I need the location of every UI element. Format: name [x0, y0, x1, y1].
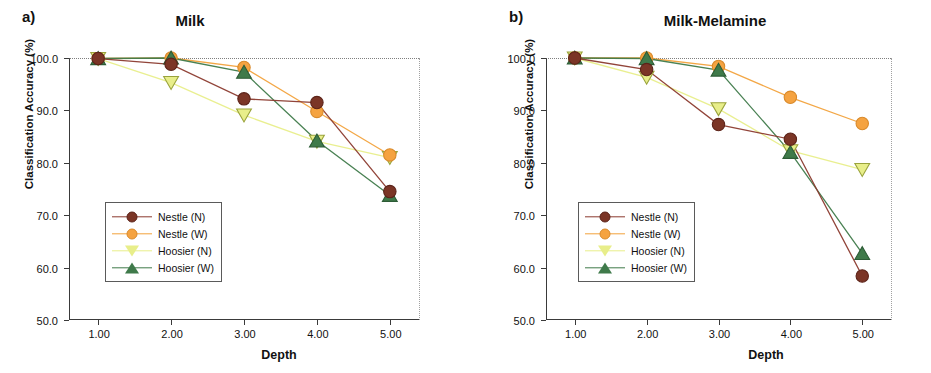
y-axis-tick-label: 60.0 — [514, 263, 535, 275]
data-point — [569, 52, 581, 64]
legend-item: Hoosier (N) — [112, 242, 214, 259]
y-axis-tick-label: 50.0 — [514, 315, 535, 327]
panel-b-plot-area: 50.060.070.080.090.0100.01.002.003.004.0… — [546, 58, 891, 320]
y-axis-tick-label: 80.0 — [37, 158, 58, 170]
x-axis-tick-label: 2.00 — [637, 328, 658, 340]
data-point — [238, 93, 250, 105]
legend-symbol — [127, 228, 138, 239]
data-point — [711, 103, 726, 116]
panel-a-x-axis-label: Depth — [219, 348, 339, 362]
data-point — [855, 164, 870, 177]
legend-symbol — [125, 245, 139, 256]
legend-item-label: Hoosier (W) — [631, 262, 687, 274]
x-axis-tick-label: 4.00 — [781, 328, 802, 340]
data-point — [311, 96, 323, 108]
x-axis-tick: 3.00 — [244, 320, 245, 325]
data-point — [784, 91, 796, 103]
panel-b-x-axis-label: Depth — [706, 348, 826, 362]
panel-a-plot-area: 50.060.070.080.090.0100.01.002.003.004.0… — [69, 58, 419, 320]
legend-marker-circle-icon — [112, 227, 152, 241]
legend-item: Hoosier (W) — [112, 259, 214, 276]
x-axis-tick: 2.00 — [647, 320, 648, 325]
panel-a-y-axis-label: Classification Accuracy (%) — [23, 0, 35, 234]
y-axis-tick-label: 100.0 — [507, 53, 535, 65]
legend-marker-circle-icon — [112, 210, 152, 224]
y-axis-tick-label: 60.0 — [37, 263, 58, 275]
panel-a: a) Milk Classification Accuracy (%) 50.0… — [0, 0, 465, 373]
legend-item-label: Nestle (N) — [631, 211, 678, 223]
y-axis-tick-label: 100.0 — [30, 53, 58, 65]
x-axis-tick-label: 5.00 — [853, 328, 874, 340]
data-point — [165, 58, 177, 70]
legend-item-label: Hoosier (N) — [631, 245, 685, 257]
data-point — [712, 118, 724, 130]
legend-marker-circle-icon — [585, 210, 625, 224]
y-axis-tick-label: 70.0 — [514, 210, 535, 222]
x-axis-tick: 2.00 — [171, 320, 172, 325]
y-axis-tick: 50.0 — [64, 320, 69, 321]
x-axis-tick: 4.00 — [317, 320, 318, 325]
data-point — [640, 63, 652, 75]
x-axis-tick-label: 3.00 — [234, 328, 255, 340]
legend-item-label: Nestle (W) — [158, 228, 208, 240]
y-axis-tick-label: 90.0 — [37, 105, 58, 117]
legend-item-label: Hoosier (W) — [158, 262, 214, 274]
x-axis-tick-label: 1.00 — [565, 328, 586, 340]
x-axis-tick-label: 3.00 — [709, 328, 730, 340]
legend-item-label: Nestle (N) — [158, 211, 205, 223]
legend-marker-triangle-down-icon — [112, 244, 152, 258]
data-point — [92, 52, 104, 64]
panel-b: b) Milk-Melamine Classification Accuracy… — [465, 0, 930, 373]
x-axis-tick-label: 2.00 — [161, 328, 182, 340]
legend-item-label: Nestle (W) — [631, 228, 681, 240]
legend-marker-triangle-up-icon — [585, 261, 625, 275]
legend-item-label: Hoosier (N) — [158, 245, 212, 257]
legend-symbol — [598, 262, 612, 273]
x-axis-tick-label: 4.00 — [307, 328, 328, 340]
data-point — [164, 77, 179, 90]
data-point — [784, 133, 796, 145]
y-axis-tick-label: 50.0 — [37, 315, 58, 327]
y-axis-tick-label: 70.0 — [37, 210, 58, 222]
data-point — [855, 247, 870, 260]
legend-symbol — [598, 245, 612, 256]
x-axis-tick-label: 5.00 — [380, 328, 401, 340]
data-point — [856, 270, 868, 282]
panel-b-title: Milk-Melamine — [525, 12, 905, 29]
x-axis-tick: 1.00 — [575, 320, 576, 325]
y-axis-tick-label: 90.0 — [514, 105, 535, 117]
legend-item: Nestle (W) — [112, 225, 214, 242]
legend-symbol — [125, 262, 139, 273]
data-point — [384, 149, 396, 161]
data-point — [237, 109, 252, 122]
x-axis-tick: 5.00 — [390, 320, 391, 325]
x-axis-tick: 1.00 — [98, 320, 99, 325]
data-point — [856, 117, 868, 129]
legend-symbol — [600, 211, 611, 222]
figure: a) Milk Classification Accuracy (%) 50.0… — [0, 0, 931, 373]
legend: Nestle (N)Nestle (W)Hoosier (N)Hoosier (… — [578, 202, 695, 282]
x-axis-tick: 3.00 — [719, 320, 720, 325]
legend-marker-triangle-down-icon — [585, 244, 625, 258]
legend-item: Nestle (N) — [112, 208, 214, 225]
axis-right-rule — [891, 58, 892, 320]
x-axis-tick-label: 1.00 — [88, 328, 109, 340]
data-point — [384, 185, 396, 197]
y-axis-tick: 50.0 — [541, 320, 546, 321]
panel-b-label: b) — [509, 8, 523, 25]
legend-item: Hoosier (N) — [585, 242, 687, 259]
legend-item: Nestle (W) — [585, 225, 687, 242]
legend: Nestle (N)Nestle (W)Hoosier (N)Hoosier (… — [105, 202, 222, 282]
legend-item: Hoosier (W) — [585, 259, 687, 276]
panel-a-title: Milk — [0, 12, 380, 29]
legend-symbol — [600, 228, 611, 239]
axis-right-rule — [419, 58, 420, 320]
x-axis-tick: 4.00 — [790, 320, 791, 325]
legend-item: Nestle (N) — [585, 208, 687, 225]
x-axis-tick: 5.00 — [862, 320, 863, 325]
legend-marker-circle-icon — [585, 227, 625, 241]
y-axis-tick-label: 80.0 — [514, 158, 535, 170]
legend-symbol — [127, 211, 138, 222]
legend-marker-triangle-up-icon — [112, 261, 152, 275]
